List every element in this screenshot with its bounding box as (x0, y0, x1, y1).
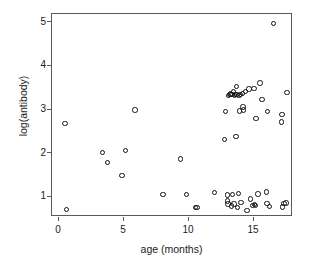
data-point (244, 208, 249, 213)
data-point (178, 156, 183, 161)
data-point (100, 150, 105, 155)
data-point (119, 173, 124, 178)
x-axis-tick-mark (123, 217, 124, 221)
data-point (271, 21, 276, 26)
data-point (257, 80, 262, 85)
y-axis-label: log(antibody) (17, 36, 29, 176)
x-axis-label: age (months) (51, 243, 292, 255)
y-axis-tick-mark (47, 21, 51, 22)
x-axis-tick-label: 5 (103, 224, 143, 235)
data-point (241, 107, 246, 112)
data-point (259, 97, 264, 102)
x-axis-tick-mark (253, 217, 254, 221)
data-point (283, 200, 288, 205)
x-axis-tick-label: 10 (168, 224, 208, 235)
data-point (279, 119, 284, 124)
data-point (253, 203, 258, 208)
data-point (264, 189, 269, 194)
data-point (230, 192, 235, 197)
data-point (132, 107, 137, 112)
data-point (105, 160, 110, 165)
scatter-plot-figure: 12345 051015 age (months) log(antibody) (0, 0, 310, 271)
data-point (64, 207, 69, 212)
data-point (279, 112, 284, 117)
data-point (123, 148, 128, 153)
data-point (253, 116, 258, 121)
y-axis-tick-label: 5 (6, 17, 46, 27)
data-point (194, 205, 199, 210)
data-point (235, 205, 240, 210)
y-axis-tick-label: 1 (6, 191, 46, 201)
data-point (223, 109, 228, 114)
data-point (265, 109, 270, 114)
x-axis-tick-mark (58, 217, 59, 221)
data-point (236, 191, 241, 196)
data-point (184, 192, 189, 197)
data-point (248, 196, 253, 201)
y-axis-tick-mark (47, 109, 51, 110)
x-axis-tick-label: 0 (38, 224, 78, 235)
data-point (251, 86, 256, 91)
x-axis-tick-mark (188, 217, 189, 221)
data-point (160, 192, 165, 197)
data-points-layer (52, 14, 291, 215)
plot-area-frame (51, 13, 292, 216)
data-point (62, 121, 67, 126)
data-point (233, 134, 238, 139)
y-axis-tick-mark (47, 65, 51, 66)
data-point (234, 84, 239, 89)
data-point (212, 190, 217, 195)
data-point (238, 200, 243, 205)
x-axis-tick-label: 15 (233, 224, 273, 235)
y-axis-tick-mark (47, 152, 51, 153)
data-point (284, 90, 289, 95)
data-point (267, 204, 272, 209)
data-point (222, 137, 227, 142)
y-axis-tick-mark (47, 196, 51, 197)
data-point (255, 191, 260, 196)
